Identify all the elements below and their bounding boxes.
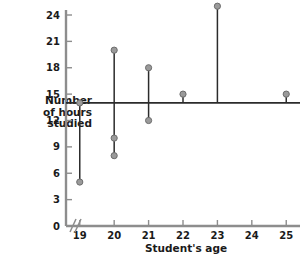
x-tick-label: 22 <box>176 230 190 241</box>
data-point <box>111 47 117 53</box>
y-tick-label: 9 <box>53 141 60 152</box>
x-tick-label: 24 <box>245 230 259 241</box>
x-tick-label: 20 <box>107 230 121 241</box>
y-tick-label: 6 <box>53 168 60 179</box>
y-tick-label: 15 <box>46 89 60 100</box>
data-point-group <box>77 3 290 185</box>
data-point <box>214 3 220 9</box>
x-tick-label-group: 19202122232425 <box>73 230 293 241</box>
x-tick-label: 23 <box>210 230 224 241</box>
data-point <box>145 117 151 123</box>
data-point <box>111 135 117 141</box>
data-point <box>283 91 289 97</box>
data-point <box>145 65 151 71</box>
x-tick-label: 25 <box>279 230 293 241</box>
plot-area: 03691215182124 19202122232425 Student's … <box>0 0 306 261</box>
data-point <box>111 153 117 159</box>
data-point <box>77 100 83 106</box>
scatter-chart: Number of hours studied 03691215182124 1… <box>0 0 306 261</box>
x-axis-title: Student's age <box>145 242 227 254</box>
y-tick-label: 24 <box>46 10 60 21</box>
data-point <box>77 179 83 185</box>
y-tick-label-group: 03691215182124 <box>46 10 60 232</box>
data-point <box>180 91 186 97</box>
x-tick-label: 21 <box>142 230 156 241</box>
y-tick-label: 3 <box>53 194 60 205</box>
y-tick-label: 18 <box>46 62 60 73</box>
y-tick-label: 0 <box>53 221 60 232</box>
y-tick-label: 12 <box>46 115 60 126</box>
y-tick-label: 21 <box>46 36 60 47</box>
